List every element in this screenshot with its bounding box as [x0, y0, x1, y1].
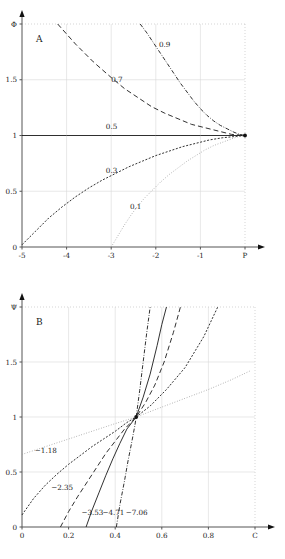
x-tick-label--5: -5	[18, 251, 25, 260]
convergence-point	[134, 415, 138, 419]
curve-label--4.71: −4.71	[102, 508, 124, 517]
x-tick-label--4: -4	[63, 251, 70, 260]
panel-b-labels: 00.20.40.60.8C00.511.5Ψ−1.18−2.35−3.53−4…	[6, 303, 259, 540]
x-tick-label-0.4: 0.4	[109, 531, 121, 540]
y-tick-label-Ψ: Ψ	[11, 303, 18, 312]
y-tick-label-0.5: 0.5	[6, 468, 18, 477]
curve-label-0.7: 0.7	[111, 75, 123, 84]
figure-container: -5-4-3-2-1P00.511.5Φ0.90.70.50.30.1A 00.…	[0, 0, 285, 559]
x-tick-label-0.2: 0.2	[63, 531, 74, 540]
x-tick-label-P: P	[243, 251, 248, 260]
panel-a: -5-4-3-2-1P00.511.5Φ0.90.70.50.30.1A	[0, 0, 285, 280]
y-tick-label-0: 0	[12, 523, 17, 532]
curve-label-0.1: 0.1	[130, 202, 141, 211]
x-axis-arrow	[258, 244, 265, 249]
y-tick-label-Φ: Φ	[11, 20, 17, 29]
curve-0.3	[22, 136, 245, 245]
convergence-point	[243, 134, 247, 138]
x-tick-label-0.6: 0.6	[156, 531, 168, 540]
y-axis-arrow	[19, 293, 24, 300]
x-tick-label--1: -1	[197, 251, 204, 260]
panel-b-plot: 00.20.40.60.8C00.511.5Ψ−1.18−2.35−3.53−4…	[0, 280, 285, 559]
curve-label--1.18: −1.18	[35, 446, 57, 455]
curve-label--7.06: −7.06	[126, 508, 148, 517]
y-tick-label-1.5: 1.5	[6, 358, 18, 367]
x-axis-arrow	[268, 524, 275, 529]
x-tick-label-0: 0	[20, 531, 25, 540]
panel-b-gridlines	[22, 307, 255, 527]
panel-a-curves	[22, 24, 247, 247]
x-tick-label-0.8: 0.8	[203, 531, 215, 540]
curve-label--2.35: −2.35	[51, 483, 73, 492]
curve-label-0.9: 0.9	[159, 40, 171, 49]
x-tick-label--2: -2	[152, 251, 159, 260]
y-tick-label-1: 1	[12, 131, 17, 140]
curve--1.18	[22, 371, 250, 455]
curve-label--3.53: −3.53	[81, 508, 103, 517]
panel-letter-A: A	[35, 34, 43, 44]
x-tick-label--3: -3	[108, 251, 115, 260]
curve-label-0.5: 0.5	[106, 122, 118, 131]
y-tick-label-1: 1	[12, 413, 17, 422]
y-axis-arrow	[19, 10, 24, 17]
panel-letter-B: B	[36, 317, 43, 327]
panel-b: 00.20.40.60.8C00.511.5Ψ−1.18−2.35−3.53−4…	[0, 280, 285, 559]
panel-a-plot: -5-4-3-2-1P00.511.5Φ0.90.70.50.30.1A	[0, 0, 285, 280]
y-tick-label-0: 0	[12, 243, 17, 252]
y-tick-label-1.5: 1.5	[6, 75, 18, 84]
y-tick-label-0.5: 0.5	[6, 187, 18, 196]
x-tick-label-C: C	[252, 531, 258, 540]
curve-label-0.3: 0.3	[106, 166, 118, 175]
